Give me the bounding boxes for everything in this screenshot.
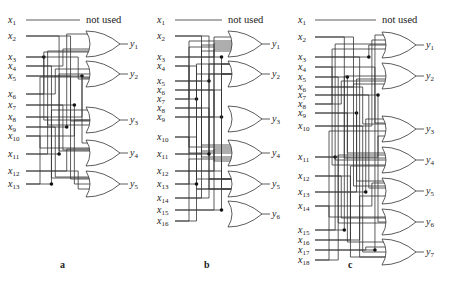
input-label-x2: x2 bbox=[156, 30, 165, 43]
junction-dot bbox=[220, 208, 224, 212]
or-gate-y1 bbox=[86, 31, 120, 57]
input-label-x2: x2 bbox=[297, 31, 306, 44]
output-label-y1: y1 bbox=[425, 39, 434, 52]
output-label-y1: y1 bbox=[129, 38, 138, 51]
output-label-y4: y4 bbox=[271, 147, 280, 160]
or-gate-y2 bbox=[382, 63, 416, 89]
output-label-y6: y6 bbox=[271, 208, 280, 221]
panel-caption: c bbox=[348, 259, 353, 270]
input-label-x1: x1 bbox=[7, 14, 16, 27]
or-gate-y5 bbox=[228, 171, 262, 197]
output-label-y5: y5 bbox=[271, 178, 280, 191]
junction-dot bbox=[376, 93, 380, 97]
junction-dot bbox=[195, 182, 199, 186]
or-gate-y4 bbox=[86, 140, 120, 166]
panel-a: x1x2x3x4x5x6x7x8x9x10x11x12x13not usedy1… bbox=[7, 14, 138, 270]
input-label-x11: x11 bbox=[7, 148, 20, 161]
output-label-y2: y2 bbox=[271, 68, 280, 81]
or-gate-y7 bbox=[382, 239, 416, 265]
panel-c: x1x2x3x4x5x6x7x8x9x10x11x12x13x14x15x16x… bbox=[297, 14, 434, 270]
or-gate-y4 bbox=[382, 147, 416, 173]
junction-dot bbox=[220, 55, 224, 59]
or-gate-y3 bbox=[382, 116, 416, 142]
output-label-y3: y3 bbox=[271, 113, 280, 126]
or-gate-y1 bbox=[228, 31, 262, 57]
not-used-note: not used bbox=[228, 14, 264, 25]
junction-dot bbox=[73, 103, 77, 107]
or-gate-y2 bbox=[228, 61, 262, 87]
or-gate-y3 bbox=[228, 106, 262, 132]
input-label-x12: x12 bbox=[297, 170, 310, 183]
or-gate-y1 bbox=[382, 32, 416, 58]
output-label-y1: y1 bbox=[271, 38, 280, 51]
junction-dot bbox=[50, 182, 54, 186]
not-used-note: not used bbox=[382, 14, 418, 25]
or-gate-circuit-diagram: x1x2x3x4x5x6x7x8x9x10x11x12x13not usedy1… bbox=[0, 0, 457, 293]
input-label-x13: x13 bbox=[156, 178, 169, 191]
junction-dot bbox=[364, 190, 368, 194]
input-label-x13: x13 bbox=[297, 186, 310, 199]
output-label-y4: y4 bbox=[425, 154, 434, 167]
input-label-x14: x14 bbox=[297, 200, 310, 213]
output-label-y3: y3 bbox=[425, 123, 434, 136]
input-label-x1: x1 bbox=[297, 14, 306, 27]
junction-dot bbox=[367, 55, 371, 59]
output-label-y5: y5 bbox=[425, 185, 434, 198]
output-label-y6: y6 bbox=[425, 216, 434, 229]
output-label-y7: y7 bbox=[425, 246, 434, 259]
input-label-x11: x11 bbox=[297, 151, 310, 164]
panel-b: x1x2x3x4x5x6x7x8x9x10x11x12x13x14x15x16n… bbox=[156, 14, 280, 270]
input-label-x12: x12 bbox=[7, 165, 20, 178]
output-label-y4: y4 bbox=[129, 147, 138, 160]
panel-caption: b bbox=[204, 259, 210, 270]
junction-dot bbox=[57, 152, 61, 156]
input-label-x10: x10 bbox=[156, 131, 169, 144]
input-label-x13: x13 bbox=[7, 178, 20, 191]
or-gate-y3 bbox=[86, 107, 120, 133]
input-label-x2: x2 bbox=[7, 30, 16, 43]
output-label-y5: y5 bbox=[129, 178, 138, 191]
or-gate-y4 bbox=[228, 140, 262, 166]
junction-dot bbox=[343, 228, 347, 232]
or-gate-y5 bbox=[382, 178, 416, 204]
panel-caption: a bbox=[60, 259, 65, 270]
junction-dot bbox=[207, 152, 211, 156]
input-label-x10: x10 bbox=[297, 120, 310, 133]
junction-dot bbox=[373, 248, 377, 252]
output-label-y2: y2 bbox=[129, 68, 138, 81]
output-label-y3: y3 bbox=[129, 114, 138, 127]
junction-dot bbox=[65, 125, 69, 129]
or-gate-y6 bbox=[382, 209, 416, 235]
input-label-x1: x1 bbox=[156, 14, 165, 27]
or-gate-y2 bbox=[86, 61, 120, 87]
or-gate-y6 bbox=[228, 201, 262, 227]
output-label-y2: y2 bbox=[425, 70, 434, 83]
or-gate-y5 bbox=[86, 171, 120, 197]
input-label-x12: x12 bbox=[156, 165, 169, 178]
input-label-x11: x11 bbox=[156, 148, 169, 161]
not-used-note: not used bbox=[86, 14, 122, 25]
